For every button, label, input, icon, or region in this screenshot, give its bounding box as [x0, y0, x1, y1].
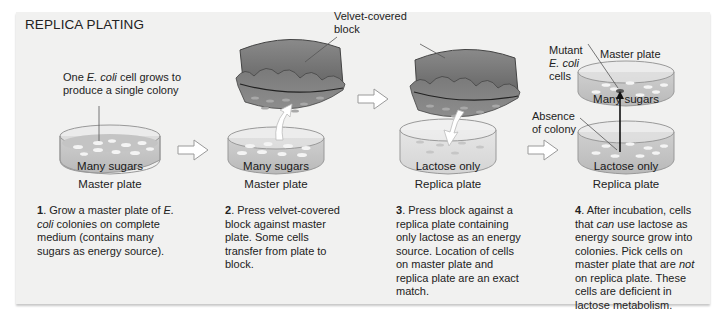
- step4-illustration: Many sugars Lactose only: [578, 44, 674, 174]
- step4-master-medium-label: Many sugars: [593, 93, 659, 105]
- step3-illustration: Lactose only: [400, 44, 520, 174]
- step2-plate-label: Master plate: [216, 178, 336, 190]
- step-arrow-3: [528, 140, 558, 160]
- mutant-cells-label: MutantE. colicells: [549, 44, 589, 83]
- step1-annotation: One E. coli cell grows to produce a sing…: [63, 71, 193, 97]
- step-arrow-1: [178, 140, 208, 160]
- velvet-block-label: Velvet-covered block: [334, 10, 414, 36]
- step2-illustration: Many sugars: [228, 37, 345, 174]
- step3-medium-label: Lactose only: [416, 160, 481, 172]
- step2-medium-label: Many sugars: [243, 160, 309, 172]
- step3-plate-label: Replica plate: [388, 178, 508, 190]
- step4-master-plate-label: Master plate: [600, 48, 690, 61]
- step1-master-plate: Many sugars: [60, 106, 160, 174]
- step1-plate-label: Master plate: [50, 178, 170, 190]
- step1-medium-label: Many sugars: [77, 160, 143, 172]
- step3-description: 3. Press block against a replica plate c…: [396, 204, 524, 299]
- step1-description: 1. Grow a master plate of E. coli coloni…: [37, 204, 187, 258]
- step4-replica-plate-label: Replica plate: [566, 178, 686, 190]
- step2-description: 2. Press velvet-covered block against ma…: [225, 204, 345, 272]
- absence-of-colony-label: Absence of colony: [532, 110, 582, 136]
- step4-replica-medium-label: Lactose only: [594, 160, 659, 172]
- step4-description: 4. After incubation, cells that can use …: [575, 204, 705, 312]
- step-arrow-2: [358, 89, 388, 109]
